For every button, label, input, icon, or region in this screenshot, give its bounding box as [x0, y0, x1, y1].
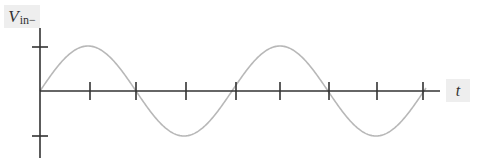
y-axis-label-subscript: in− [20, 13, 36, 28]
y-axis-label-main: V [8, 7, 18, 27]
waveform-diagram [0, 0, 479, 168]
y-axis-label: Vin− [4, 5, 40, 28]
x-axis-label: t [446, 79, 470, 102]
